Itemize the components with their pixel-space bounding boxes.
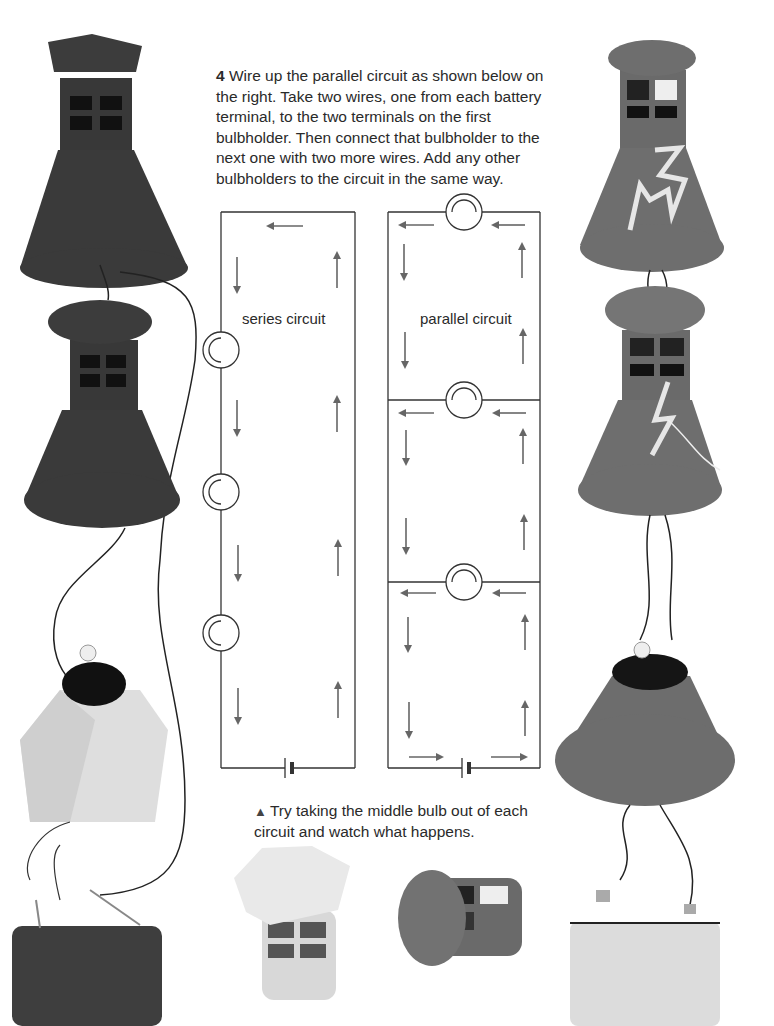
bulb-symbol <box>203 474 239 510</box>
up-triangle-icon: ▲ <box>254 804 267 819</box>
series-arrows <box>237 226 338 723</box>
parallel-circuit-label: parallel circuit <box>420 310 513 327</box>
parallel-arrows <box>400 225 526 757</box>
bulb-symbol <box>446 564 482 600</box>
series-circuit-diagram <box>203 212 355 778</box>
bulb-symbol <box>203 332 239 368</box>
caption-text: Try taking the middle bulb out of each c… <box>254 802 528 840</box>
circuit-diagrams: series circuit <box>0 0 774 1026</box>
bulb-symbol <box>446 382 482 418</box>
bulb-symbol <box>446 194 482 230</box>
battery-symbol <box>285 758 292 778</box>
caption: ▲Try taking the middle bulb out of each … <box>254 801 554 842</box>
bulb-symbol <box>203 615 239 651</box>
battery-symbol <box>462 758 469 778</box>
parallel-circuit-diagram <box>388 194 540 778</box>
series-circuit-label: series circuit <box>242 310 326 327</box>
